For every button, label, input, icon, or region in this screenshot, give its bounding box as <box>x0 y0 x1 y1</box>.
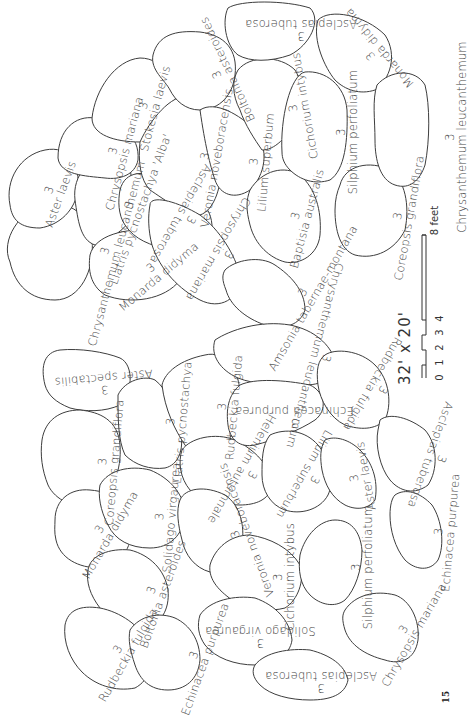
plant-label: 3Echinacea purpurea <box>235 405 354 429</box>
scale-tick-3: 3 <box>434 329 445 335</box>
plant-label: 3Solidago virgaurea <box>205 625 316 649</box>
plant-label: 3Cichorium intybus <box>272 523 296 631</box>
scale-tick-0: 0 <box>434 374 445 380</box>
scale-tick-4: 4 <box>434 315 445 321</box>
page-number: 15 <box>441 691 451 704</box>
plant-label: 3Silphium perfoliatum <box>335 70 359 194</box>
plant-label: 3Asclepias tuberosa <box>265 670 377 694</box>
plant-label: 3Silphium perfoliatum <box>350 505 374 629</box>
scale-tick-2: 2 <box>434 344 445 350</box>
plant-label: 3Chrysanthemum leucanthemum <box>444 41 468 232</box>
scale-bar <box>422 235 426 378</box>
scale-tick-1: 1 <box>434 359 445 365</box>
scale-unit-label: 8 feet <box>429 206 440 235</box>
